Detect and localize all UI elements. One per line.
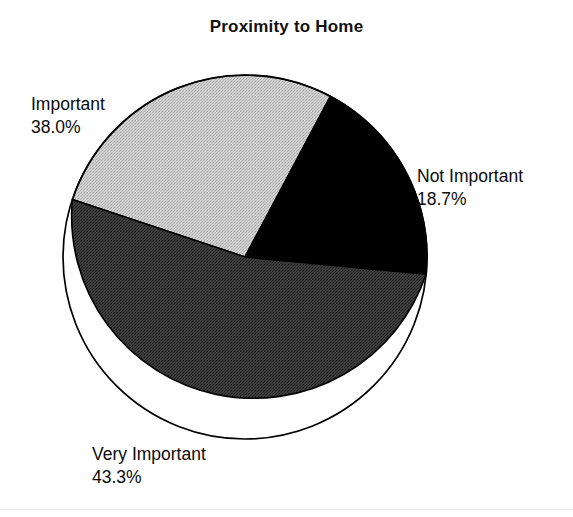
bottom-divider — [0, 509, 573, 510]
pie-label-very-important: Very Important 43.3% — [92, 443, 206, 489]
pie-chart-graphic — [0, 0, 573, 517]
pie-label-important-name: Important — [31, 94, 105, 114]
pie-label-important-percent: 38.0% — [31, 116, 105, 139]
pie-label-not-important-name: Not Important — [417, 166, 523, 186]
pie-label-not-important: Not Important 18.7% — [417, 165, 523, 211]
pie-label-important: Important 38.0% — [31, 93, 105, 139]
pie-chart-figure: Proximity to Home Important — [0, 0, 573, 517]
pie-label-not-important-percent: 18.7% — [417, 188, 523, 211]
pie-label-very-important-name: Very Important — [92, 444, 206, 464]
pie-label-very-important-percent: 43.3% — [92, 466, 206, 489]
